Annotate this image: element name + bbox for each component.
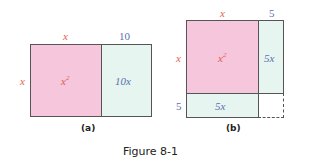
- panel-a-top-x-label: x: [63, 30, 68, 42]
- panel-a-strip-label: 10x: [115, 75, 131, 87]
- panel-b-top-5-label: 5: [269, 7, 275, 19]
- figure-title: Figure 8-1: [123, 145, 178, 158]
- panel-a-square-label: x2: [61, 75, 69, 87]
- panel-b-bottom-strip-label: 5x: [215, 100, 225, 112]
- panel-b-left-x-label: x: [176, 52, 181, 64]
- panel-b-top-x-label: x: [220, 7, 225, 19]
- panel-b-corner-dashed: [258, 93, 284, 118]
- panel-b-right-strip-label: 5x: [264, 52, 274, 64]
- panel-a-caption: (a): [81, 123, 95, 133]
- panel-a-left-x-label: x: [20, 75, 25, 87]
- panel-b-left-5-label: 5: [176, 100, 182, 112]
- panel-b-square-label: x2: [218, 52, 226, 64]
- panel-a-top-10-label: 10: [119, 30, 130, 42]
- panel-b-caption: (b): [226, 123, 241, 133]
